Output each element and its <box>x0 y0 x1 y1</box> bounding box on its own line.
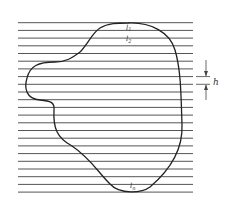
label-ln: ln <box>130 182 135 191</box>
label-l1: l1 <box>126 24 131 33</box>
parallel-lines <box>18 23 193 192</box>
diagram-canvas: h l1 l2 ln <box>0 0 233 208</box>
arrow-up-head <box>204 85 208 90</box>
spacing-marker <box>196 60 210 100</box>
label-l1-sub: 1 <box>128 26 131 32</box>
label-l2-sub: 2 <box>127 38 131 44</box>
label-spacing-h: h <box>213 77 219 87</box>
arrow-down-head <box>204 71 208 76</box>
label-l2: l2 <box>126 35 131 44</box>
label-ln-sub: n <box>132 185 135 191</box>
